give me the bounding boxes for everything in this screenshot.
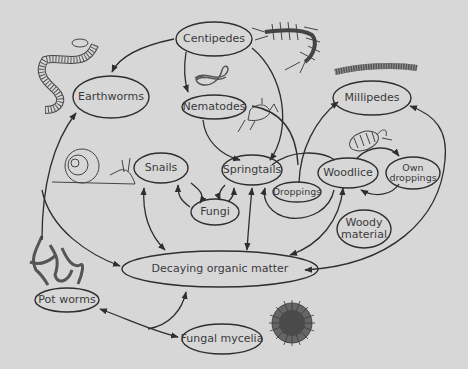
snail-illustration	[52, 149, 135, 184]
earthworm-illustration	[42, 39, 95, 110]
fungal-mycelia-illustration	[269, 300, 315, 346]
nematode-illustration	[195, 66, 228, 85]
node-decaying-organic-matter	[122, 251, 318, 287]
edge-potworms-fungal	[100, 309, 178, 337]
edge-woodlice-own-droppings	[357, 148, 399, 158]
node-fungi	[191, 199, 239, 225]
diagram-canvas	[0, 0, 468, 369]
node-earthworms	[73, 76, 149, 118]
edge-springtails-fungi	[219, 185, 225, 200]
node-own-droppings	[386, 157, 440, 189]
food-web-diagram: Centipedes Earthworms Nematodes Milliped…	[0, 0, 468, 369]
edge-centipedes-earthworms	[112, 39, 174, 72]
edges	[42, 39, 445, 337]
edge-decaying-earthworms	[42, 113, 76, 240]
edge-fungi-snails	[178, 185, 190, 207]
edge-fungi-springtails-1	[228, 188, 234, 202]
node-droppings	[273, 182, 321, 202]
node-woodlice	[318, 158, 378, 188]
millipede-illustration	[335, 66, 417, 72]
edge-nematodes-droppings	[252, 106, 298, 165]
edge-own-droppings-woodlice	[361, 184, 399, 195]
node-pot-worms	[35, 288, 99, 312]
edge-centipedes-nematodes	[185, 52, 188, 92]
edge-snails-fungi-1	[191, 183, 202, 203]
centipede-illustration	[252, 22, 320, 73]
edge-centipedes-springtails	[252, 48, 283, 160]
node-snails	[134, 153, 188, 183]
node-fungal-mycelia	[182, 324, 262, 354]
node-woody-material	[337, 210, 391, 248]
edge-nematodes-springtails	[203, 120, 240, 160]
node-springtails	[222, 155, 282, 185]
edge-potworms-decaying	[148, 292, 186, 329]
node-millipedes	[333, 81, 411, 115]
edge-snails-decaying	[144, 188, 165, 250]
node-centipedes	[176, 22, 252, 56]
node-nematodes	[182, 95, 246, 119]
edge-woodlice-springtails	[264, 188, 334, 218]
pot-worms-illustration	[30, 236, 83, 285]
edge-springtails-decaying	[247, 188, 252, 250]
